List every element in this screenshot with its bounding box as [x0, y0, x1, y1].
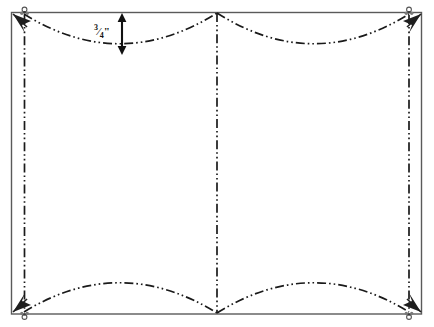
- fraction-numerator: 3: [94, 23, 98, 32]
- depth-dimension-label: 3⁄4": [94, 25, 110, 37]
- dimension-unit: ": [104, 25, 110, 37]
- pattern-drawing-canvas: [0, 0, 434, 327]
- pattern-diagram: 3⁄4": [0, 0, 434, 327]
